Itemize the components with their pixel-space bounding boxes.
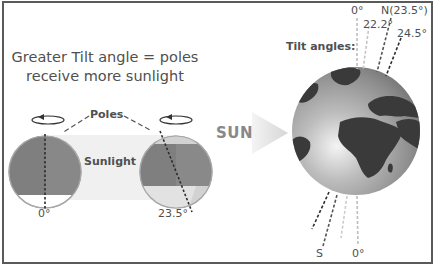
rotation-arrow-icon [160, 114, 192, 124]
globe-angle-label-0: 0° [38, 207, 51, 220]
top-axis-label-north: N(23.5°) [381, 4, 428, 17]
headline-line-2: receive more sunlight [0, 67, 210, 86]
globe-angle-label-23-5: 23.5° [158, 207, 188, 220]
sun-arrow-icon [252, 112, 288, 154]
poles-label: Poles [90, 108, 123, 121]
top-axis-label-22-2: 22.2° [363, 18, 393, 31]
tilt-axis-lines-bottom [312, 192, 358, 246]
earth-globe [292, 67, 420, 195]
rotation-arrow-icon [32, 114, 64, 124]
headline-line-1: Greater Tilt angle = poles [0, 48, 210, 67]
tilt-angles-label: Tilt angles: [286, 40, 355, 53]
sun-label: SUN [216, 124, 253, 142]
sunlight-label: Sunlight [84, 155, 136, 168]
top-axis-label-0: 0° [351, 4, 364, 17]
top-axis-label-24-5: 24.5° [397, 27, 427, 40]
bottom-axis-label-south: S [316, 247, 323, 260]
bottom-axis-label-0: 0° [352, 247, 365, 260]
